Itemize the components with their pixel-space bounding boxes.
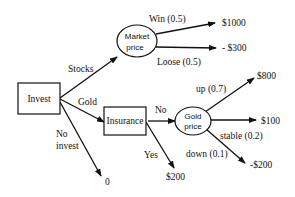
edge-label-no-invest-line2: invest [56, 141, 79, 151]
edge-label-gold: Gold [78, 97, 97, 107]
edge-label-no: No [155, 105, 167, 115]
edge-no-invest [60, 102, 101, 176]
outcome-loose: - $300 [222, 43, 247, 53]
edge-label-stable: stable (0.2) [220, 131, 263, 142]
market-price-label-line1: Market [125, 32, 150, 41]
edge-label-down: down (0.1) [186, 149, 228, 160]
gold-price-label-line2: price [184, 122, 202, 131]
market-price-node [117, 25, 157, 57]
gold-price-label-line1: Gold [185, 112, 202, 121]
outcome-win: $1000 [222, 18, 246, 28]
decision-tree-diagram: Invest Market price Insurance Gold price… [0, 0, 295, 197]
edge-label-stocks: Stocks [68, 64, 94, 74]
edge-label-loose: Loose (0.5) [157, 57, 201, 68]
edge-win [156, 23, 215, 34]
edge-label-up: up (0.7) [196, 84, 226, 95]
outcome-up: $800 [257, 71, 276, 81]
outcome-stable: $100 [261, 116, 280, 126]
edge-label-win: Win (0.5) [149, 14, 186, 25]
outcome-down: -$200 [250, 160, 272, 170]
edge-yes [146, 122, 174, 168]
edge-label-yes: Yes [144, 150, 158, 160]
market-price-label-line2: price [126, 43, 144, 52]
edge-loose [156, 47, 216, 48]
outcome-insured: $200 [166, 172, 185, 182]
invest-node-label: Invest [27, 94, 51, 104]
outcome-no-invest: 0 [105, 177, 110, 187]
insurance-node-label: Insurance [107, 116, 144, 126]
edge-label-no-invest-line1: No [56, 129, 68, 139]
